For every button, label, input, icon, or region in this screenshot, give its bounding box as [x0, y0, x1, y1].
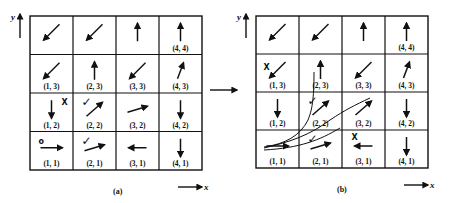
cell-label: (1, 1): [43, 159, 60, 168]
grid-cell: (2, 3): [312, 61, 329, 90]
grid-cell: (3, 3): [129, 63, 146, 91]
grid-cell: (3, 1): [129, 148, 147, 168]
cell-label: (4, 3): [172, 82, 189, 91]
cell-label: (4, 2): [172, 121, 189, 130]
policy-arrow-icon: [44, 63, 60, 79]
cell-label: (4, 1): [398, 157, 415, 166]
cell-label: (1, 3): [269, 81, 286, 90]
check-mark-icon: ✓: [82, 134, 92, 148]
grid-cell: (1, 2): [269, 99, 286, 128]
cell-label: (3, 1): [355, 157, 372, 166]
grid-cell: (4, 3): [172, 63, 189, 91]
grid-cell: [313, 24, 329, 40]
grid-cell: (3, 2): [128, 106, 148, 129]
x-axis-label: x: [203, 182, 209, 192]
policy-arrow-icon: [356, 101, 372, 115]
grid-cell: (1, 2)X: [43, 98, 68, 130]
panel-a-grid: yx(4, 4)(1, 3)(2, 3)(3, 3)(4, 3)(1, 2)X(…: [10, 12, 209, 192]
cell-label: (2, 1): [312, 157, 329, 166]
cell-label: (4, 2): [398, 119, 415, 128]
cell-label: (3, 3): [355, 81, 372, 90]
cell-label: (1, 1): [269, 157, 286, 166]
grid-cell: [44, 24, 60, 40]
grid-cell: (3, 2): [355, 101, 372, 128]
grid-cell: (3, 1)X: [352, 133, 373, 166]
cell-label: (4, 4): [398, 43, 415, 52]
cross-mark-icon: X: [62, 98, 69, 107]
x-axis-label: x: [429, 180, 435, 190]
cell-label: (3, 1): [129, 159, 146, 168]
cell-label: (2, 2): [86, 121, 103, 130]
policy-arrow-icon: [313, 24, 329, 40]
panel-b-caption: (b): [337, 185, 347, 194]
cell-label: (3, 3): [129, 82, 146, 91]
grid-cell: (1, 1)o: [39, 137, 63, 169]
policy-arrow-icon: [128, 106, 148, 112]
panel-b-grid: yx(4, 4)(1, 3)X(2, 3)(3, 3)(4, 3)(1, 2)(…: [236, 12, 435, 190]
grid-cell: (4, 1): [172, 139, 189, 168]
cell-label: (1, 3): [43, 82, 60, 91]
cell-label: (4, 1): [172, 159, 189, 168]
grid-cell: (4, 4): [398, 23, 415, 52]
grid-cell: (2, 1)✓: [308, 132, 331, 166]
policy-arrow-icon: [44, 24, 60, 40]
cell-label: (2, 1): [86, 159, 103, 168]
y-axis-label: y: [236, 12, 242, 22]
cell-label: (1, 2): [269, 119, 286, 128]
policy-arrow-icon: [87, 24, 103, 40]
policy-arrow-icon: [356, 62, 372, 78]
grid-cell: (4, 3): [398, 62, 415, 90]
grid-cell: (4, 2): [398, 99, 415, 128]
grid-cell: (2, 3): [86, 62, 103, 91]
grid-cell: (2, 2)✓: [82, 95, 104, 130]
grid-cell: (4, 4): [172, 23, 189, 52]
policy-arrow-icon: [404, 62, 410, 78]
policy-arrow-icon: [270, 24, 286, 40]
cell-label: (1, 2): [43, 121, 60, 130]
grid-cell: (1, 3): [43, 63, 60, 91]
policy-arrow-icon: [178, 63, 184, 79]
circle-mark-icon: o: [39, 137, 45, 146]
check-mark-icon: ✓: [308, 132, 318, 146]
policy-arrow-icon: [130, 63, 146, 79]
cell-label: (4, 3): [398, 81, 415, 90]
cross-mark-icon: X: [264, 63, 271, 72]
grid-cell: (4, 1): [398, 137, 415, 166]
cell-label: (3, 2): [355, 119, 372, 128]
grid-cell: (3, 3): [355, 62, 372, 90]
cell-label: (3, 2): [129, 121, 146, 130]
grid-cell: (1, 3)X: [264, 62, 287, 90]
grid-cell: (4, 2): [172, 100, 189, 129]
check-mark-icon: ✓: [82, 95, 92, 109]
grid-cell: [87, 24, 103, 40]
policy-arrow-icon: [270, 62, 286, 78]
y-axis-label: y: [10, 12, 16, 22]
policy-grid-figure: yx(4, 4)(1, 3)(2, 3)(3, 3)(4, 3)(1, 2)X(…: [0, 0, 451, 203]
cell-label: (2, 3): [312, 81, 329, 90]
grid-cell: [270, 24, 286, 40]
cross-mark-icon: X: [352, 133, 359, 142]
panel-a-caption: (a): [113, 187, 123, 196]
grid-cell: (2, 1)✓: [82, 134, 105, 169]
cell-label: (4, 4): [172, 44, 189, 53]
cell-label: (2, 3): [86, 82, 103, 91]
